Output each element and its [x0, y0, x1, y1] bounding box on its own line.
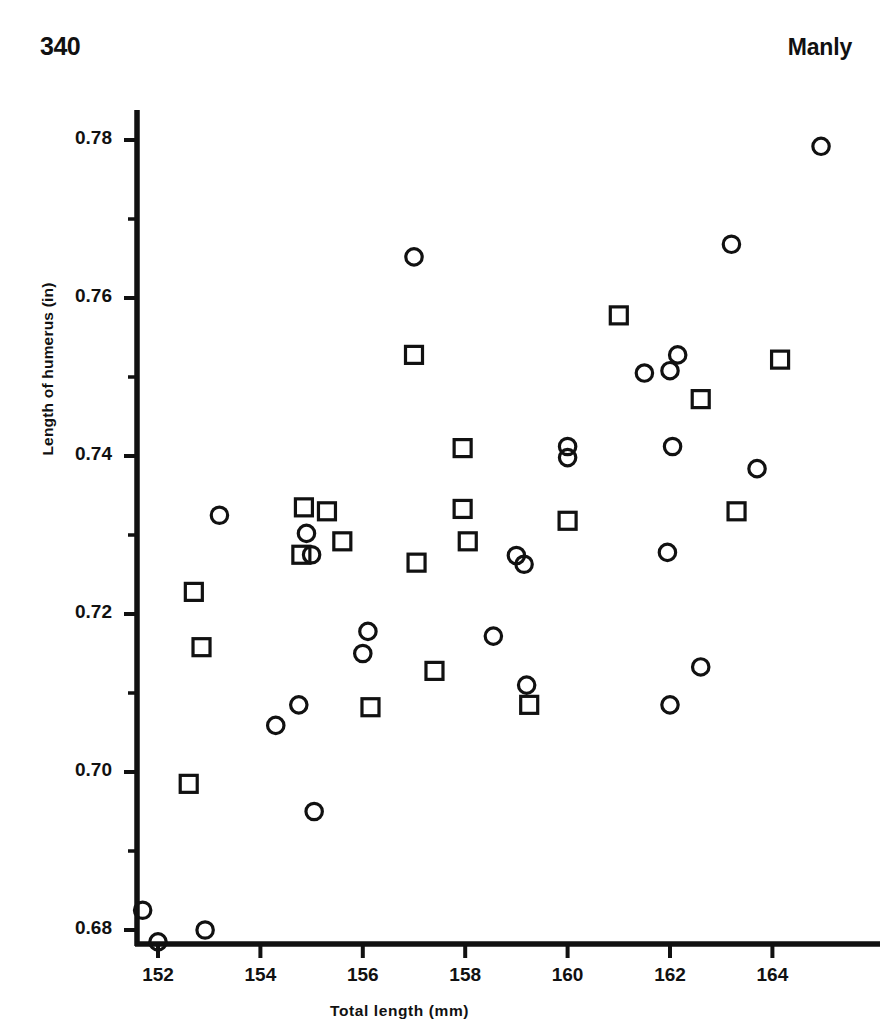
data-point-square: [728, 503, 745, 520]
y-axis-tick-label: 0.68: [32, 917, 112, 939]
data-point-square: [692, 391, 709, 408]
x-axis-tick-label: 160: [538, 964, 598, 986]
y-axis-tick-label: 0.78: [32, 127, 112, 149]
data-point-circle: [211, 507, 227, 523]
data-point-circle: [662, 697, 678, 713]
data-point-square: [559, 512, 576, 529]
data-point-circle: [669, 347, 685, 363]
data-point-circle: [406, 249, 422, 265]
data-point-circle: [303, 547, 319, 563]
y-axis-tick-label: 0.70: [32, 759, 112, 781]
data-point-circle: [360, 623, 376, 639]
data-markers-layer: [134, 138, 829, 950]
y-axis-tick-label: 0.76: [32, 285, 112, 307]
data-point-circle: [197, 922, 213, 938]
data-point-square: [406, 346, 423, 363]
data-point-circle: [518, 677, 534, 693]
data-point-square: [459, 533, 476, 550]
plot-canvas: [0, 0, 894, 1033]
data-point-square: [362, 699, 379, 716]
series-circle-group: [134, 138, 829, 950]
data-point-square: [318, 503, 335, 520]
data-point-circle: [813, 138, 829, 154]
y-axis-tick-label: 0.74: [32, 443, 112, 465]
data-point-square: [193, 639, 210, 656]
scatter-plot-figure: Length of humerus (in) Total length (mm)…: [0, 0, 894, 1033]
data-point-circle: [693, 659, 709, 675]
data-point-circle: [485, 628, 501, 644]
x-axis-title: Total length (mm): [330, 1002, 469, 1020]
data-point-circle: [298, 525, 314, 541]
data-point-square: [295, 499, 312, 516]
data-point-circle: [749, 460, 765, 476]
data-point-circle: [306, 803, 322, 819]
data-point-square: [454, 440, 471, 457]
data-point-square: [180, 775, 197, 792]
x-axis-tick-label: 154: [230, 964, 290, 986]
axes-layer: [124, 110, 880, 958]
x-axis-tick-label: 158: [435, 964, 495, 986]
data-point-circle: [662, 362, 678, 378]
data-point-circle: [291, 697, 307, 713]
data-point-circle: [355, 645, 371, 661]
data-point-square: [334, 533, 351, 550]
data-point-square: [521, 696, 538, 713]
data-point-circle: [659, 544, 675, 560]
data-point-circle: [268, 717, 284, 733]
x-axis-tick-label: 156: [333, 964, 393, 986]
y-axis-tick-label: 0.72: [32, 601, 112, 623]
data-point-circle: [559, 449, 575, 465]
data-point-square: [772, 351, 789, 368]
data-point-circle: [636, 365, 652, 381]
x-axis-tick-label: 162: [640, 964, 700, 986]
data-point-square: [454, 500, 471, 517]
x-axis-tick-label: 152: [128, 964, 188, 986]
data-point-circle: [723, 236, 739, 252]
data-point-square: [408, 554, 425, 571]
data-point-square: [610, 307, 627, 324]
x-axis-tick-label: 164: [742, 964, 802, 986]
data-point-square: [426, 662, 443, 679]
data-point-circle: [664, 438, 680, 454]
data-point-square: [185, 583, 202, 600]
